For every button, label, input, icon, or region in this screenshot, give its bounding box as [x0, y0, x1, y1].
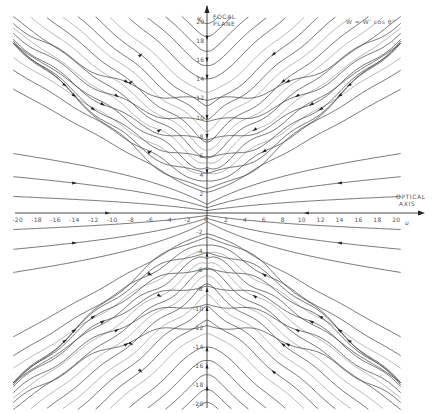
x-tick-label: 18: [373, 216, 381, 223]
y-tick-label: -10: [193, 305, 204, 312]
flow-arrow-icon: [157, 293, 163, 298]
x-tick-label: 10: [298, 216, 306, 223]
flow-arrow-icon: [304, 212, 309, 215]
flow-arrow-icon: [206, 287, 209, 292]
x-tick-label: 4: [243, 216, 247, 223]
x-tick-label: 16: [354, 216, 362, 223]
x-tick-label: 12: [317, 216, 325, 223]
y-tick-label: -6: [196, 266, 203, 273]
optical-axis-arrow-icon: [418, 211, 425, 216]
formula-annotation: W = W' cos θ°: [346, 18, 395, 25]
x-tick-label: -4: [165, 216, 172, 223]
flow-arrow-icon: [206, 58, 209, 63]
flow-arrow-icon: [72, 182, 77, 185]
flow-arrow-icon: [124, 79, 130, 84]
y-tick-label: -4: [196, 247, 203, 254]
x-tick-label: -14: [69, 216, 80, 223]
flow-arrow-icon: [105, 212, 110, 215]
focal-plane-axis-arrow-icon: [205, 5, 210, 13]
streamline-plot: [0, 0, 435, 413]
y-tick-label: 14: [196, 75, 204, 82]
flow-arrow-icon: [294, 94, 300, 99]
flow-arrow-icon: [114, 328, 120, 333]
flow-arrow-icon: [206, 134, 209, 139]
y-tick-label: -2: [196, 228, 203, 235]
y-tick-label: -8: [196, 285, 203, 292]
y-tick-label: -16: [193, 362, 204, 369]
u-axis-symbol: u: [405, 219, 409, 226]
flow-arrow-icon: [337, 182, 342, 185]
origin-label: 0: [204, 215, 208, 222]
flow-arrow-icon: [124, 342, 130, 347]
y-tick-label: -14: [193, 343, 204, 350]
x-tick-label: -18: [31, 216, 42, 223]
x-tick-label: -6: [147, 216, 154, 223]
streamline-figure: v FOCAL PLANE OPTICAL AXIS u W = W' cos …: [0, 0, 435, 413]
focal-plane-title-line2: PLANE: [213, 20, 236, 27]
y-tick-label: 12: [196, 94, 204, 101]
x-tick-label: 8: [281, 216, 285, 223]
x-tick-label: 6: [262, 216, 266, 223]
y-tick-label: -20: [193, 400, 204, 407]
x-tick-label: 2: [224, 216, 228, 223]
flow-arrow-icon: [114, 94, 120, 99]
flow-arrow-icon: [72, 241, 77, 244]
flow-arrow-icon: [206, 36, 209, 41]
y-tick-label: 16: [196, 56, 204, 63]
flow-arrow-icon: [285, 342, 291, 347]
x-tick-label: -8: [128, 216, 135, 223]
flow-arrow-icon: [294, 328, 300, 333]
optical-axis-title-line1: OPTICAL: [396, 193, 426, 200]
flow-arrow-icon: [261, 272, 267, 277]
x-tick-label: -16: [50, 216, 61, 223]
x-tick-label: 20: [392, 216, 400, 223]
x-tick-label: -20: [12, 216, 23, 223]
flow-arrow-icon: [206, 364, 209, 369]
y-tick-label: 18: [196, 37, 204, 44]
flow-arrow-icon: [252, 294, 258, 299]
y-tick-label: 6: [200, 152, 204, 159]
flow-arrow-icon: [261, 149, 267, 154]
flow-arrow-icon: [206, 386, 209, 391]
flow-arrow-icon: [337, 241, 342, 244]
streamline: [47, 17, 368, 143]
flow-arrow-icon: [285, 79, 291, 84]
y-tick-label: 2: [200, 190, 204, 197]
y-tick-label: 8: [200, 133, 204, 140]
flow-arrow-icon: [157, 128, 163, 133]
optical-axis-title-line2: AXIS: [396, 200, 426, 207]
x-tick-label: 14: [336, 216, 344, 223]
flow-arrow-icon: [252, 127, 258, 132]
streamline: [47, 284, 368, 410]
y-tick-label: -18: [193, 381, 204, 388]
y-tick-label: -12: [193, 324, 204, 331]
focal-plane-title: FOCAL PLANE: [213, 13, 236, 27]
optical-axis-title: OPTICAL AXIS: [396, 193, 426, 207]
y-tick-label: 20: [196, 18, 204, 25]
x-tick-label: -12: [88, 216, 99, 223]
y-tick-label: 4: [200, 171, 204, 178]
x-tick-label: -2: [184, 216, 191, 223]
x-tick-label: -10: [107, 216, 118, 223]
focal-plane-title-line1: FOCAL: [213, 13, 236, 20]
y-tick-label: 10: [196, 114, 204, 121]
